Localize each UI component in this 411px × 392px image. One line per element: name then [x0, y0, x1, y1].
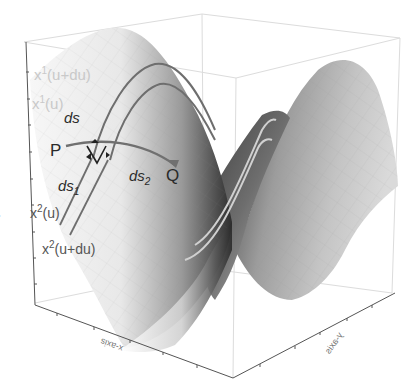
label-x1-u: x1(u): [32, 95, 63, 111]
label-ds2: ds2: [129, 168, 150, 187]
z-axis-label: z-axis: [0, 192, 2, 223]
label-ds1: ds1: [58, 178, 79, 197]
label-x2-u: x2(u): [30, 204, 60, 220]
label-x2-u-du: x2(u+du): [42, 240, 95, 256]
point-Q-label: Q: [166, 167, 179, 184]
label-x1-u-du: x1(u+du): [34, 66, 91, 82]
y-axis: [233, 293, 395, 378]
point-P-label: P: [50, 142, 61, 159]
surface-figure: z-axis x-axis y-axis x1(u+du) x1(u) x2(u…: [0, 0, 411, 392]
label-ds: ds: [64, 110, 80, 125]
